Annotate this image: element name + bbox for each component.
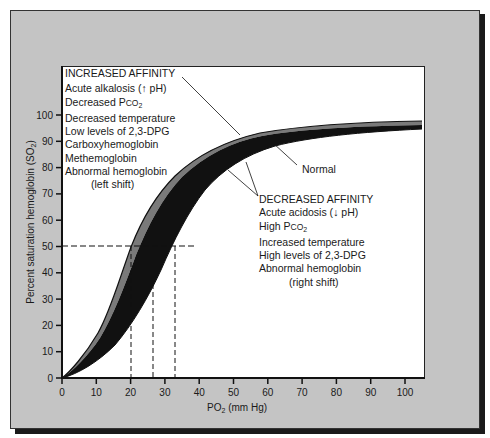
svg-text:50: 50 <box>228 387 240 398</box>
plot-svg: 0 10 20 30 40 50 60 70 80 90 100 <box>0 0 490 438</box>
svg-text:10: 10 <box>91 387 103 398</box>
increased-affinity-heading: INCREASED AFFINITY <box>65 67 175 80</box>
normal-leader <box>273 143 297 165</box>
svg-text:80: 80 <box>42 162 54 173</box>
svg-text:60: 60 <box>42 215 54 226</box>
svg-text:30: 30 <box>159 387 171 398</box>
decreased-l1: Acute acidosis (↓ pH) <box>259 206 373 219</box>
svg-text:60: 60 <box>262 387 274 398</box>
svg-text:70: 70 <box>297 387 309 398</box>
decreased-l3: Increased temperature <box>259 236 373 249</box>
svg-text:100: 100 <box>397 387 414 398</box>
svg-text:0: 0 <box>59 387 65 398</box>
increased-affinity-leader <box>182 77 240 135</box>
svg-text:40: 40 <box>42 267 54 278</box>
decreased-affinity-annotation: DECREASED AFFINITY Acute acidosis (↓ pH)… <box>259 193 373 289</box>
svg-text:50: 50 <box>42 241 54 252</box>
increased-l6: Methemoglobin <box>65 152 175 165</box>
decreased-affinity-heading: DECREASED AFFINITY <box>259 193 373 206</box>
x-axis-label: PO2 (mm Hg) <box>207 402 267 414</box>
increased-l7: Abnormal hemoglobin <box>65 165 175 178</box>
x-tick-labels: 0 10 20 30 40 50 60 70 80 90 100 <box>59 387 414 398</box>
svg-text:10: 10 <box>42 346 54 357</box>
svg-text:90: 90 <box>365 387 377 398</box>
decreased-l2: High PCO2 <box>259 220 373 236</box>
svg-text:90: 90 <box>42 136 54 147</box>
increased-l4: Low levels of 2,3-DPG <box>65 125 175 138</box>
svg-text:0: 0 <box>47 373 53 384</box>
increased-l2: Decreased PCO2 <box>65 96 175 112</box>
decreased-l4: High levels of 2,3-DPG <box>259 249 373 262</box>
svg-text:70: 70 <box>42 188 54 199</box>
svg-text:20: 20 <box>42 320 54 331</box>
svg-text:40: 40 <box>194 387 206 398</box>
svg-text:80: 80 <box>331 387 343 398</box>
increased-l1: Acute alkalosis (↑ pH) <box>65 82 175 95</box>
increased-l8: (left shift) <box>65 178 175 191</box>
increased-l3: Decreased temperature <box>65 112 175 125</box>
chart-figure: 0 10 20 30 40 50 60 70 80 90 100 <box>0 0 490 438</box>
decreased-l6: (right shift) <box>259 276 373 289</box>
increased-l5: Carboxyhemoglobin <box>65 138 175 151</box>
y-tick-labels: 0 10 20 30 40 50 60 70 80 90 100 <box>36 110 53 384</box>
normal-label: Normal <box>302 163 336 176</box>
svg-text:100: 100 <box>36 110 53 121</box>
increased-affinity-annotation: INCREASED AFFINITY Acute alkalosis (↑ pH… <box>65 67 175 192</box>
svg-text:30: 30 <box>42 294 54 305</box>
decreased-l5: Abnormal hemoglobin <box>259 262 373 275</box>
y-axis-label: Percent saturation hemoglobin (SO2) <box>25 140 37 303</box>
svg-text:20: 20 <box>125 387 137 398</box>
